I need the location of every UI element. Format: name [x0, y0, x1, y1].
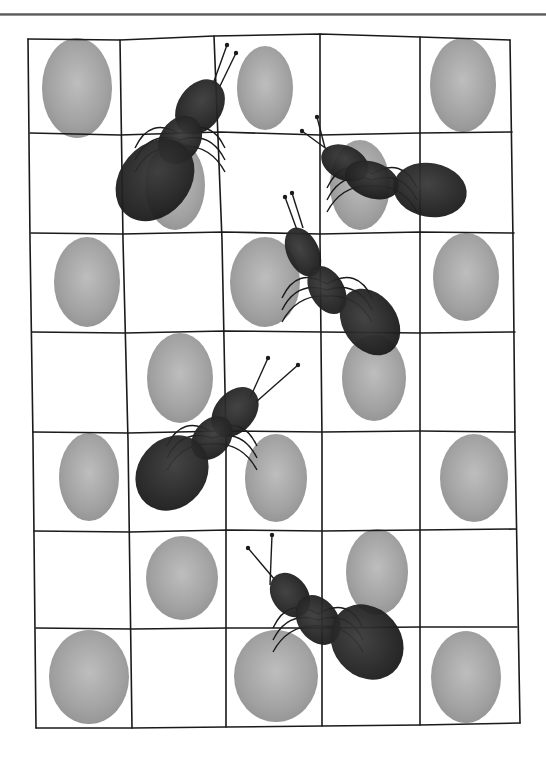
ant-antenna-tip: [270, 533, 274, 537]
grid-lines: [28, 34, 520, 728]
fingerprint: [433, 233, 499, 321]
fingerprint: [346, 529, 408, 615]
fingerprint: [430, 38, 496, 132]
ant-antenna-tip: [246, 546, 250, 550]
ant-antenna-tip: [266, 356, 270, 360]
ant-antenna: [270, 535, 272, 585]
ant-antenna-tip: [225, 43, 229, 47]
ant-antenna-tip: [300, 129, 304, 133]
fingerprint: [440, 434, 508, 522]
fingerprint: [245, 434, 307, 522]
ant-antenna-tip: [290, 191, 294, 195]
fingerprint-ants-artwork: [0, 0, 546, 760]
ant-body-segment: [389, 157, 471, 223]
ant-antenna-tip: [315, 115, 319, 119]
fingerprint: [59, 433, 119, 521]
fingerprint: [237, 46, 293, 130]
fingerprint-layer: [42, 38, 508, 724]
fingerprint: [49, 630, 129, 724]
fingerprint: [54, 237, 120, 327]
ant-antenna-tip: [296, 363, 300, 367]
fingerprint: [431, 631, 501, 723]
fingerprint: [146, 536, 218, 620]
fingerprint: [42, 38, 112, 138]
ant-antenna-tip: [234, 51, 238, 55]
ant-antenna-tip: [283, 195, 287, 199]
fingerprint: [234, 630, 318, 722]
fingerprint: [147, 333, 213, 423]
